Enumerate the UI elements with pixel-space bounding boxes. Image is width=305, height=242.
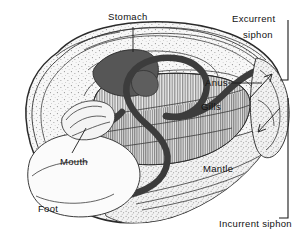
- bivalve-anatomy-figure: Stomach Excurrent siphon Anus Gills Mant…: [0, 0, 305, 242]
- siphon-region: [250, 58, 289, 158]
- label-gills: Gills: [201, 101, 221, 112]
- label-mantle: Mantle: [203, 163, 233, 174]
- label-excurrent-siphon-line2: siphon: [243, 29, 273, 40]
- excurrent-bracket: [280, 20, 288, 80]
- label-foot: Foot: [38, 203, 58, 214]
- label-incurrent-siphon: Incurrent siphon: [219, 218, 292, 229]
- label-mouth: Mouth: [60, 156, 88, 167]
- label-stomach: Stomach: [108, 11, 148, 22]
- label-excurrent-siphon-line1: Excurrent: [232, 13, 275, 24]
- label-anus: Anus: [205, 77, 228, 88]
